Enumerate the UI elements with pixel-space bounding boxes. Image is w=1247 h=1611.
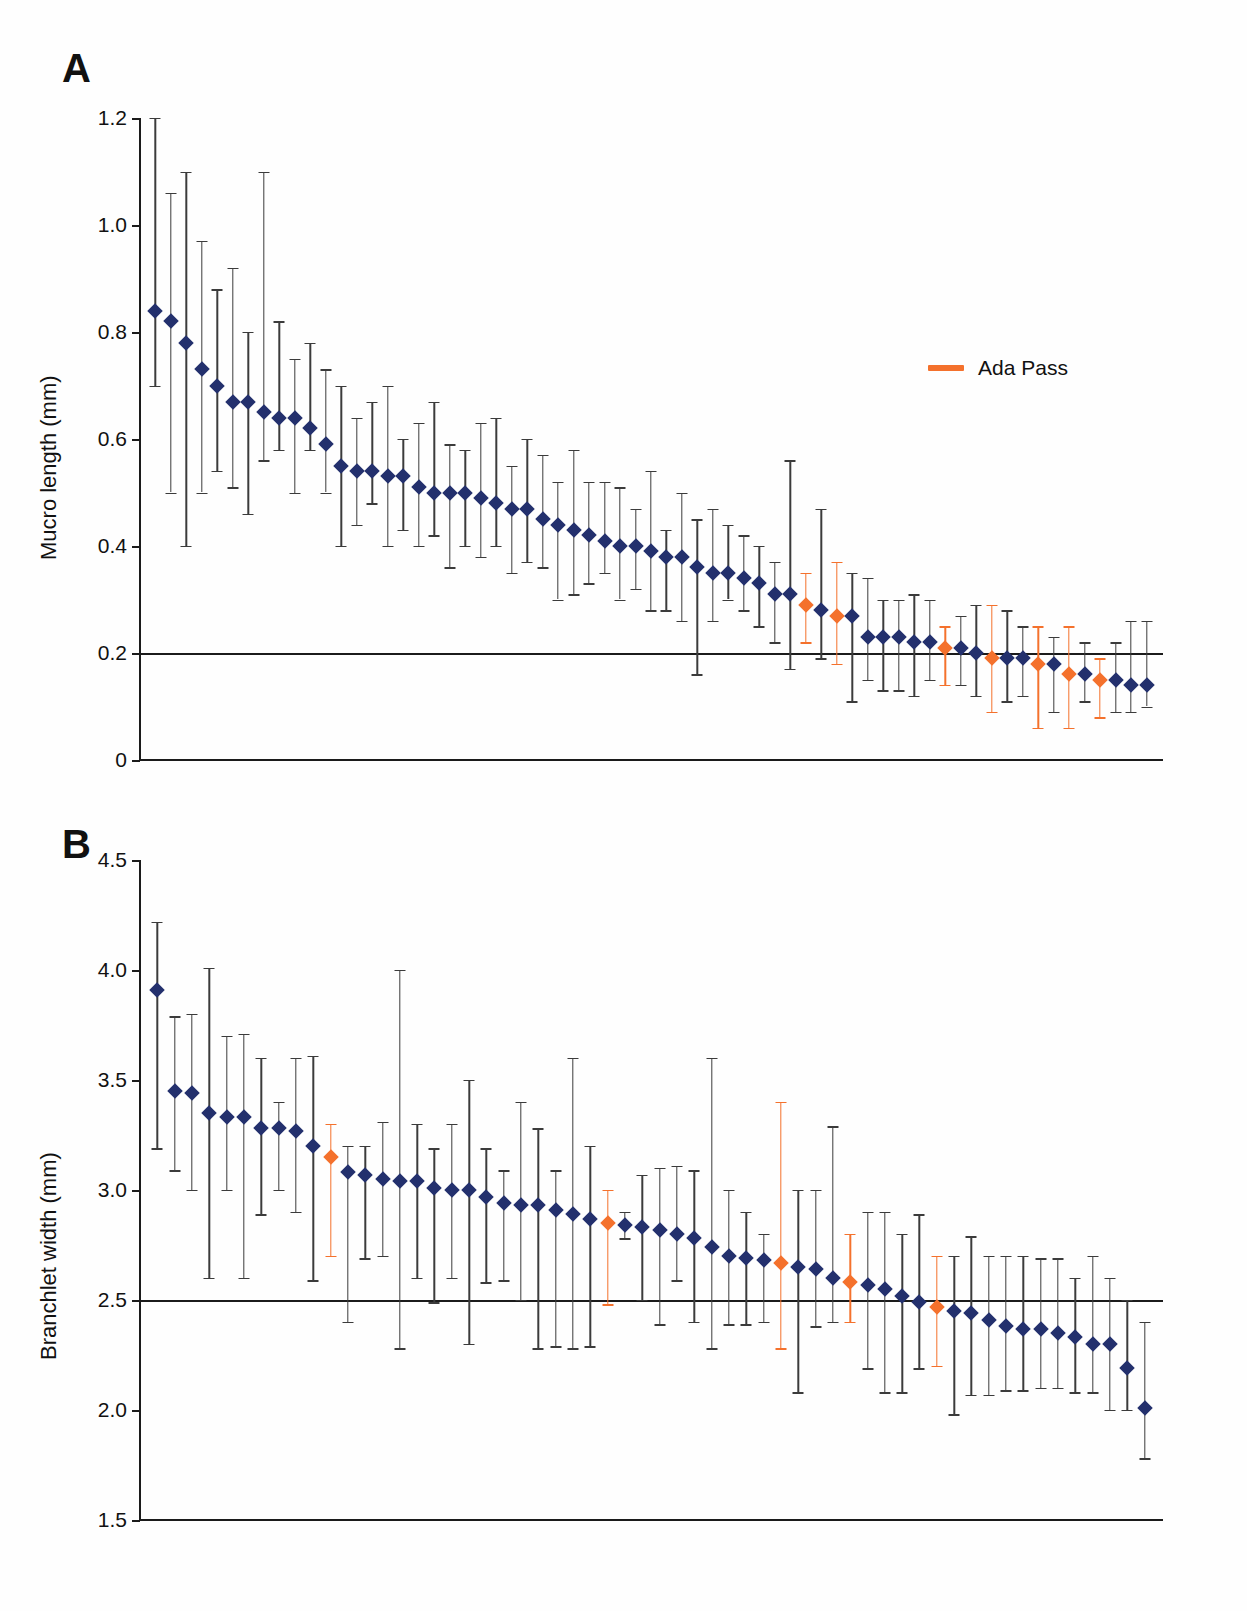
error-bar-cap [630,589,641,590]
data-point [1050,1325,1066,1341]
error-bar-cap [227,487,238,488]
error-bar [901,1234,902,1392]
y-tick-mark [132,653,140,655]
error-bar [191,1014,192,1190]
error-bar-cap [1070,1278,1081,1279]
error-bar-cap [897,1234,908,1235]
error-bar-cap [1095,658,1106,659]
error-bar-cap [661,610,672,611]
error-bar [434,1148,435,1302]
panel-a: A Mucro length (mm) 00.20.40.60.81.01.2 … [0,0,1247,800]
error-bar-cap [1105,1278,1116,1279]
error-bar-cap [550,1170,561,1171]
y-tick-mark [132,1080,140,1082]
data-point [473,490,489,506]
error-bar-cap [949,1414,960,1415]
error-bar [780,1102,781,1348]
error-bar-cap [584,482,595,483]
error-bar-cap [273,1190,284,1191]
error-bar [248,332,249,514]
data-point [287,410,303,426]
error-bar-cap [1001,1256,1012,1257]
data-point [687,1231,703,1247]
data-point [288,1123,304,1139]
error-bar-cap [845,1234,856,1235]
error-bar-cap [924,600,935,601]
data-point [504,501,520,517]
data-point [946,1303,962,1319]
error-bar [372,402,373,504]
error-bar [1092,1256,1093,1392]
error-bar-cap [444,444,455,445]
error-bar-cap [165,493,176,494]
error-bar [642,1175,643,1300]
data-point [380,469,396,485]
error-bar-cap [646,610,657,611]
error-bar-cap [274,450,285,451]
error-bar-cap [305,343,316,344]
error-bar-cap [847,573,858,574]
error-bar-cap [584,583,595,584]
y-tick-label: 0.6 [98,427,127,451]
y-tick-mark [132,1190,140,1192]
error-bar-cap [212,289,223,290]
error-bar-cap [498,1170,509,1171]
error-bar-cap [914,1368,925,1369]
error-bar [451,1124,452,1278]
error-bar-cap [325,1256,336,1257]
data-point [845,608,861,624]
data-point [148,303,164,319]
data-point [721,565,737,581]
error-bar-cap [1017,626,1028,627]
error-bar-cap [273,1102,284,1103]
error-bar-cap [398,439,409,440]
error-bar-cap [491,546,502,547]
error-bar-cap [775,1348,786,1349]
data-point [225,394,241,410]
y-tick-mark [132,970,140,972]
error-bar-cap [831,664,842,665]
y-tick-mark [132,1300,140,1302]
data-point [427,1180,443,1196]
data-point [364,463,380,479]
error-bar [884,1212,885,1392]
error-bar-cap [986,712,997,713]
error-bar-cap [971,605,982,606]
data-point [968,645,984,661]
data-point-ada-pass [1092,672,1108,688]
error-bar [650,471,651,610]
error-bar-cap [367,503,378,504]
error-bar-cap [966,1395,977,1396]
data-point [375,1171,391,1187]
data-point [1137,1400,1153,1416]
data-point [906,635,922,651]
error-bar-cap [585,1146,596,1147]
y-tick-label: 0 [115,748,127,772]
panel-b: B Branchlet width (mm) 1.52.02.53.03.54.… [0,800,1247,1611]
error-bar-cap [1053,1388,1064,1389]
data-point [565,1206,581,1222]
y-tick-label: 1.2 [98,106,127,130]
error-bar-cap [429,535,440,536]
error-bar-cap [692,674,703,675]
data-point [442,485,458,501]
error-bar-cap [256,1214,267,1215]
data-point [457,485,473,501]
error-bar-cap [1001,1390,1012,1391]
error-bar-cap [568,1058,579,1059]
error-bar-cap [516,1300,527,1301]
error-bar-cap [793,1190,804,1191]
orange-line-swatch-icon [928,365,964,371]
error-bar-cap [1064,728,1075,729]
error-bar-cap [1035,1388,1046,1389]
error-bar-cap [723,525,734,526]
error-bar-cap [212,471,223,472]
figure-root: A Mucro length (mm) 00.20.40.60.81.01.2 … [0,0,1247,1611]
error-bar-cap [204,1278,215,1279]
panel-a-y-axis-title: Mucro length (mm) [36,375,62,560]
error-bar [403,439,404,530]
error-bar-cap [491,418,502,419]
data-point-ada-pass [842,1275,858,1291]
data-point-ada-pass [798,597,814,613]
error-bar-cap [464,1344,475,1345]
